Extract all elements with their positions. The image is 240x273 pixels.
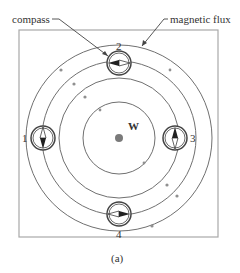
compass-4 — [107, 202, 131, 226]
compass-3 — [163, 126, 187, 150]
compass-4-label: 4 — [116, 228, 122, 240]
compass-leader-line — [52, 19, 108, 56]
compass-3-label: 3 — [190, 132, 196, 144]
wire-label: W — [128, 120, 139, 132]
compass-2 — [107, 51, 131, 75]
wire-dot — [115, 134, 123, 142]
flux-leader-line — [142, 19, 168, 46]
figure-caption: (a) — [111, 252, 124, 265]
compass-2-label: 2 — [116, 40, 122, 52]
flux-callout-label: magnetic flux — [170, 13, 231, 25]
compass-callout-label: compass — [12, 13, 50, 25]
compass-1-label: 1 — [22, 132, 28, 144]
compass-1 — [31, 126, 55, 150]
magnetic-field-diagram: W 2 4 1 3 compass magnetic flux (a) — [0, 0, 240, 273]
